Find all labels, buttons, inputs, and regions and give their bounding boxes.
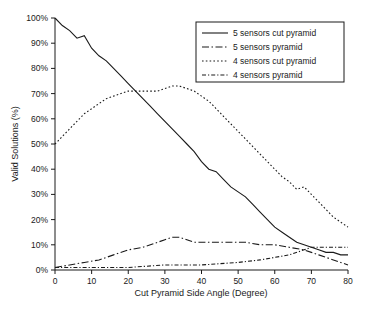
y-tick-label: 50% [31, 139, 48, 149]
chart-container: 0%10%20%30%40%50%60%70%80%90%100% 010203… [0, 0, 365, 313]
legend-label: 4 sensors pyramid [233, 70, 303, 80]
legend: 5 sensors cut pyramid 5 sensors pyramid … [196, 22, 344, 82]
x-tick-label: 40 [197, 276, 207, 286]
y-tick-label: 20% [31, 215, 48, 225]
legend-label: 5 sensors cut pyramid [233, 28, 316, 38]
legend-label: 4 sensors cut pyramid [233, 56, 316, 66]
x-tick-label: 70 [307, 276, 317, 286]
x-tick-label: 30 [160, 276, 170, 286]
x-tick-label: 10 [87, 276, 97, 286]
y-tick-label: 90% [31, 38, 48, 48]
y-tick-label: 10% [31, 240, 48, 250]
y-tick-label: 30% [31, 189, 48, 199]
x-tick-label: 20 [124, 276, 134, 286]
y-tick-label: 40% [31, 164, 48, 174]
x-tick-label: 50 [233, 276, 243, 286]
y-axis-title: Valid Solutions (%) [10, 106, 20, 181]
y-tick-label: 80% [31, 63, 48, 73]
x-tick-label: 60 [270, 276, 280, 286]
x-tick-label: 80 [343, 276, 353, 286]
valid-solutions-line-chart: 0%10%20%30%40%50%60%70%80%90%100% 010203… [0, 0, 365, 313]
x-tick-label: 0 [53, 276, 58, 286]
x-axis-title: Cut Pyramid Side Angle (Degree) [134, 288, 267, 298]
y-tick-label: 70% [31, 89, 48, 99]
legend-label: 5 sensors pyramid [233, 42, 303, 52]
y-tick-label: 0% [36, 265, 49, 275]
y-tick-label: 60% [31, 114, 48, 124]
y-tick-label: 100% [26, 13, 48, 23]
